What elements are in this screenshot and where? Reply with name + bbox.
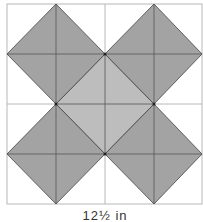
size-label: 12½ in [0, 208, 203, 222]
quilt-block-diagram [0, 0, 203, 222]
